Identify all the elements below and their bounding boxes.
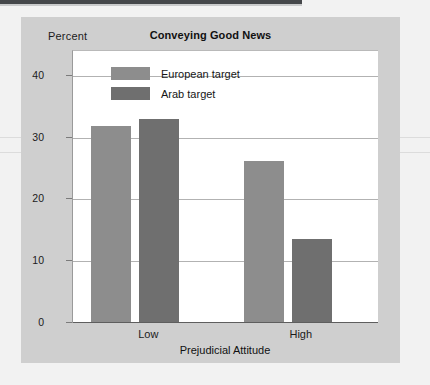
legend-item-arab-target[interactable]: Arab target — [111, 87, 240, 100]
legend-swatch-icon — [111, 67, 150, 80]
chart-figure-panel: Percent Conveying Good News European tar… — [21, 17, 400, 363]
x-tick-label-high: High — [289, 328, 312, 340]
x-axis-baseline — [73, 322, 378, 323]
page-top-rule-shadow — [0, 4, 302, 6]
bar-high-european[interactable] — [244, 161, 284, 322]
plot-area: European targetArab target — [72, 50, 378, 323]
y-tick-mark — [66, 75, 72, 76]
legend-swatch-icon — [111, 87, 150, 100]
x-tick-label-low: Low — [138, 328, 158, 340]
bar-low-european[interactable] — [91, 126, 131, 322]
y-tick-label: 40 — [4, 69, 44, 81]
y-tick-label: 30 — [4, 131, 44, 143]
y-tick-label: 10 — [4, 254, 44, 266]
bar-low-arab[interactable] — [139, 119, 179, 322]
y-tick-mark — [66, 322, 72, 323]
legend-label: European target — [161, 68, 240, 80]
y-tick-mark — [66, 198, 72, 199]
legend-label: Arab target — [161, 88, 215, 100]
chart-title: Conveying Good News — [21, 29, 400, 41]
y-tick-label: 20 — [4, 192, 44, 204]
legend-item-european-target[interactable]: European target — [111, 67, 240, 80]
y-tick-mark — [66, 260, 72, 261]
x-axis-title: Prejudicial Attitude — [72, 344, 378, 356]
chart-legend: European targetArab target — [111, 67, 240, 100]
y-tick-mark — [66, 137, 72, 138]
y-tick-label: 0 — [4, 316, 44, 328]
bar-high-arab[interactable] — [292, 239, 332, 322]
